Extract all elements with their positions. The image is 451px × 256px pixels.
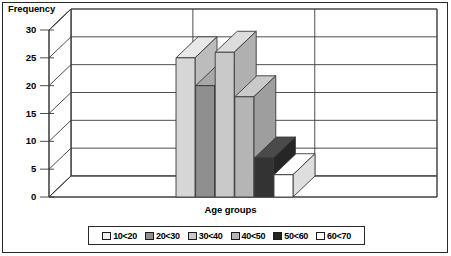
chart-container: Frequency Age groups 10<2020<3030<4040<5… xyxy=(0,0,451,256)
legend-label-4: 50<60 xyxy=(284,231,308,241)
y-tick-label-0: 0 xyxy=(14,191,36,202)
y-tick-label-5: 5 xyxy=(14,163,36,174)
legend-swatch-icon-4 xyxy=(273,232,282,240)
bar-front-face-0 xyxy=(176,58,195,197)
legend-label-5: 60<70 xyxy=(327,231,351,241)
plot-area xyxy=(0,0,451,256)
legend-label-2: 30<40 xyxy=(199,231,223,241)
y-tick-label-15: 15 xyxy=(14,108,36,119)
legend-item-40-50[interactable]: 40<50 xyxy=(231,231,266,241)
bar-front-face-5 xyxy=(274,175,293,197)
y-tick-label-20: 20 xyxy=(14,80,36,91)
y-tick-label-10: 10 xyxy=(14,135,36,146)
bar-front-face-2 xyxy=(215,52,234,197)
bar-front-face-4 xyxy=(254,158,273,197)
x-axis-title: Age groups xyxy=(0,204,451,215)
y-tick-label-30: 30 xyxy=(14,24,36,35)
legend-swatch-icon-1 xyxy=(145,232,154,240)
bar-front-face-3 xyxy=(235,97,254,197)
legend-item-30-40[interactable]: 30<40 xyxy=(188,231,223,241)
legend-item-60-70[interactable]: 60<70 xyxy=(316,231,351,241)
legend-item-10-20[interactable]: 10<20 xyxy=(102,231,137,241)
legend-label-1: 20<30 xyxy=(156,231,180,241)
legend-swatch-icon-5 xyxy=(316,232,325,240)
legend-swatch-icon-3 xyxy=(231,232,240,240)
chart-legend: 10<2020<3030<4040<5050<6060<70 xyxy=(88,226,365,245)
y-tick-label-25: 25 xyxy=(14,52,36,63)
bar-front-face-1 xyxy=(196,86,215,197)
legend-swatch-icon-0 xyxy=(102,232,111,240)
x-axis-title-text: Age groups xyxy=(205,204,257,215)
legend-label-0: 10<20 xyxy=(113,231,137,241)
legend-swatch-icon-2 xyxy=(188,232,197,240)
legend-item-20-30[interactable]: 20<30 xyxy=(145,231,180,241)
legend-item-50-60[interactable]: 50<60 xyxy=(273,231,308,241)
legend-label-3: 40<50 xyxy=(242,231,266,241)
